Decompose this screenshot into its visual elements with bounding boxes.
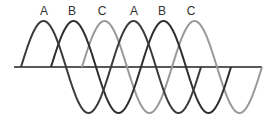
- phase-label-c: C: [187, 4, 196, 18]
- phase-label-b: B: [68, 4, 76, 18]
- phase-label-b: B: [158, 4, 166, 18]
- phase-label-a: A: [40, 4, 48, 18]
- phase-labels: ABCABC: [40, 4, 196, 18]
- phase-label-a: A: [130, 4, 138, 18]
- three-phase-diagram: ABCABC: [0, 0, 269, 121]
- phase-label-c: C: [98, 4, 107, 18]
